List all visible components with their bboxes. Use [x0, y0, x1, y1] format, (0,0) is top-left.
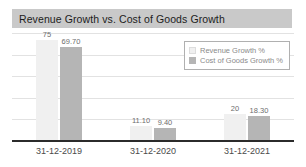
bar-value-label: 18.30 [239, 106, 279, 115]
bar[interactable] [36, 40, 58, 141]
x-axis-tick-labels: 31-12-201931-12-202031-12-2021 [12, 146, 294, 162]
legend-item[interactable]: Revenue Growth % [189, 46, 283, 55]
x-tick-label: 31-12-2020 [108, 146, 198, 156]
bar-group: 7569.70 [36, 33, 82, 141]
bar-value-label: 69.70 [51, 37, 91, 46]
x-tick-label: 31-12-2021 [202, 146, 292, 156]
bar[interactable] [248, 116, 270, 141]
bar-group: 11.109.40 [130, 33, 176, 141]
x-tick-label: 31-12-2019 [14, 146, 104, 156]
legend-swatch-icon [189, 57, 196, 64]
bar[interactable] [224, 114, 246, 141]
chart-card: Revenue Growth vs. Cost of Goods Growth … [0, 0, 306, 167]
chart-legend: Revenue Growth %Cost of Goods Growth % [184, 41, 290, 70]
legend-item[interactable]: Cost of Goods Growth % [189, 56, 283, 65]
bar[interactable] [60, 47, 82, 141]
bar-value-label: 9.40 [145, 118, 185, 127]
legend-item-label: Cost of Goods Growth % [200, 56, 283, 65]
chart-title-bar: Revenue Growth vs. Cost of Goods Growth [12, 9, 292, 28]
x-axis-line [12, 140, 294, 142]
page-title: Revenue Growth vs. Cost of Goods Growth [19, 13, 225, 25]
legend-item-label: Revenue Growth % [200, 46, 265, 55]
legend-swatch-icon [189, 47, 196, 54]
bar[interactable] [130, 126, 152, 141]
